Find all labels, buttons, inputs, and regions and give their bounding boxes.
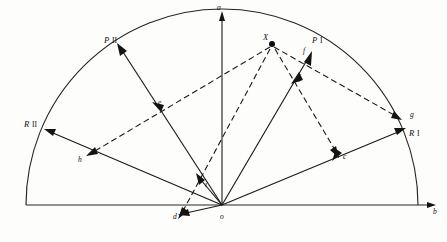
figure-background: [0, 0, 447, 242]
label-i: i: [205, 180, 207, 189]
label-p1: P: [311, 35, 318, 45]
label-b: b: [433, 207, 437, 216]
label-g: g: [410, 110, 414, 119]
label-a: a: [217, 3, 221, 12]
figure-container: a b o P II P I R II R I X g f j e c h i: [0, 0, 447, 242]
label-j: j: [298, 73, 301, 82]
label-x: X: [262, 33, 269, 42]
label-r2: R: [23, 119, 30, 129]
label-r2-roman: II: [32, 120, 38, 129]
vector-diagram-canvas: a b o P II P I R II R I X g f j e c h i: [0, 0, 447, 242]
point-x-dot: [269, 41, 275, 47]
label-o: o: [220, 212, 224, 221]
label-h: h: [78, 155, 82, 164]
label-r1: R: [408, 128, 415, 138]
label-p2: P: [103, 35, 110, 45]
label-p2-roman: II: [112, 36, 118, 45]
label-d: d: [173, 212, 177, 221]
